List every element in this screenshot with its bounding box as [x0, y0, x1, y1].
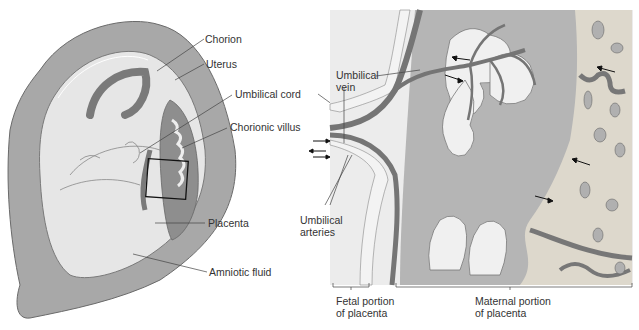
label-uterus: Uterus	[206, 58, 237, 70]
label-maternal-portion: Maternal portion of placenta	[475, 295, 551, 319]
placenta-detail	[309, 10, 633, 285]
uterus-illustration	[8, 21, 236, 318]
label-amniotic-fluid: Amniotic fluid	[209, 266, 271, 278]
label-placenta: Placenta	[208, 217, 249, 229]
label-chorion: Chorion	[205, 33, 242, 45]
label-umbilical-arteries: Umbilical arteries	[300, 214, 343, 238]
label-umbilical-cord: Umbilical cord	[235, 88, 301, 100]
label-fetal-portion: Fetal portion of placenta	[336, 295, 394, 319]
label-chorionic-villus: Chorionic villus	[230, 121, 301, 133]
label-umbilical-vein: Umbilical vein	[336, 69, 379, 93]
placenta-diagram	[0, 0, 639, 330]
